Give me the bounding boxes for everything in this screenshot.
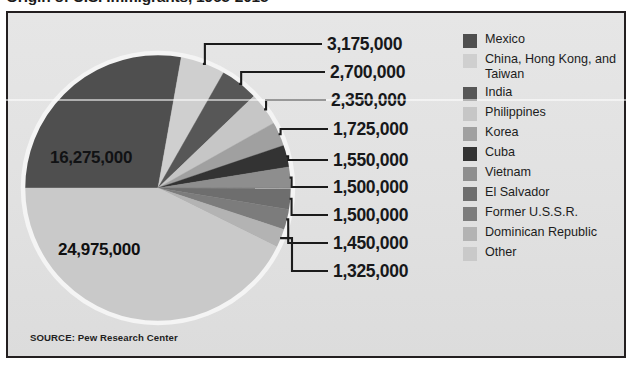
legend-swatch-icon — [463, 107, 477, 121]
legend-item-label: Former U.S.S.R. — [485, 205, 578, 220]
legend-item[interactable]: Vietnam — [463, 165, 628, 181]
legend-item[interactable]: Cuba — [463, 145, 628, 161]
callout-value-former-ussr: 1,450,000 — [333, 233, 408, 254]
legend-item-label: Mexico — [485, 32, 525, 47]
legend-swatch-icon — [463, 167, 477, 181]
legend-swatch-icon — [463, 147, 477, 161]
chart-image: Origin of U.S. Immigrants, 1965-2015 16,… — [0, 0, 632, 379]
legend-item-label: India — [485, 85, 512, 100]
legend-item-label: Other — [485, 245, 517, 260]
callout-value-dominican-republic: 1,325,000 — [333, 261, 408, 282]
legend-swatch-icon — [463, 187, 477, 201]
legend-swatch-icon — [463, 247, 477, 261]
legend-item[interactable]: Philippines — [463, 105, 628, 121]
legend-item-label: Cuba — [485, 145, 515, 160]
slice-value-other: 24,975,000 — [58, 240, 140, 260]
legend-item[interactable]: Other — [463, 245, 628, 261]
callout-value-korea: 1,725,000 — [333, 119, 408, 140]
legend-swatch-icon — [463, 54, 477, 68]
legend: MexicoChina, Hong Kong, and TaiwanIndiaP… — [463, 32, 628, 265]
legend-item[interactable]: China, Hong Kong, and Taiwan — [463, 52, 628, 81]
legend-item-label: China, Hong Kong, and Taiwan — [485, 52, 628, 81]
legend-item-label: Vietnam — [485, 165, 531, 180]
legend-item[interactable]: Former U.S.S.R. — [463, 205, 628, 221]
callout-value-india: 2,700,000 — [330, 62, 405, 83]
legend-swatch-icon — [463, 87, 477, 101]
legend-swatch-icon — [463, 227, 477, 241]
legend-item[interactable]: Dominican Republic — [463, 225, 628, 241]
callout-value-china: 3,175,000 — [327, 34, 402, 55]
page-title: Origin of U.S. Immigrants, 1965-2015 — [6, 0, 626, 6]
legend-item-label: Korea — [485, 125, 519, 140]
legend-swatch-icon — [463, 207, 477, 221]
source-note: SOURCE: Pew Research Center — [30, 332, 178, 343]
pie-chart-svg — [18, 48, 298, 328]
callout-value-cuba: 1,550,000 — [333, 150, 408, 171]
legend-item-label: Philippines — [485, 105, 546, 120]
legend-item[interactable]: Korea — [463, 125, 628, 141]
pie-chart — [18, 48, 298, 328]
callout-value-philippines: 2,350,000 — [331, 90, 406, 111]
callout-value-vietnam: 1,500,000 — [333, 177, 408, 198]
slice-value-mexico: 16,275,000 — [50, 148, 132, 168]
legend-item[interactable]: El Salvador — [463, 185, 628, 201]
legend-item[interactable]: Mexico — [463, 32, 628, 48]
callout-value-el-salvador: 1,500,000 — [333, 205, 408, 226]
legend-item-label: El Salvador — [485, 185, 549, 200]
legend-item[interactable]: India — [463, 85, 628, 101]
legend-swatch-icon — [463, 34, 477, 48]
legend-item-label: Dominican Republic — [485, 225, 597, 240]
legend-swatch-icon — [463, 127, 477, 141]
pie-slices — [24, 54, 292, 322]
